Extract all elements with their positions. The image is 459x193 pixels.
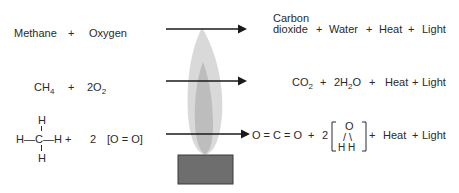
formula-2h2o: 2H2O [334,76,361,88]
methane-bottom-h: H [38,152,46,164]
co2-structure: O = C = O [252,129,302,141]
formula-co2: CO2 [292,76,313,88]
plus-sign: + [369,129,375,141]
product-heat: Heat [379,23,402,35]
plus-sign: + [408,23,414,35]
product-heat: Heat [385,76,408,88]
product-heat: Heat [383,129,406,141]
reactant-methane: Methane [14,27,57,39]
product-dioxide-label: dioxide [273,23,308,35]
reactant-oxygen: Oxygen [89,27,127,39]
plus-sign: + [412,129,418,141]
oxygen-coefficient: 2 [90,133,96,145]
plus-sign: + [308,129,314,141]
water-hydrogens: H H [338,142,355,154]
product-water: Water [329,23,358,35]
oxygen-structure: [O = O] [107,133,143,145]
plus-sign: + [316,23,322,35]
bond-line [41,145,42,151]
arrow-row1 [166,25,247,34]
plus-sign: + [320,76,326,88]
product-light: Light [422,76,446,88]
methane-top-h: H [38,114,46,126]
formula-2o2: 2O2 [87,81,106,93]
bond-line [41,126,42,131]
product-light: Light [422,23,446,35]
methane-structure: H—C—H + [16,133,71,145]
plus-sign: + [366,23,372,35]
plus-sign: + [68,27,74,39]
product-light: Light [422,129,446,141]
plus-sign: + [68,81,74,93]
burner [178,155,233,184]
formula-ch4: CH4 [34,81,54,93]
plus-sign: + [369,76,375,88]
plus-sign: + [412,76,418,88]
water-coefficient: 2 [322,129,328,141]
